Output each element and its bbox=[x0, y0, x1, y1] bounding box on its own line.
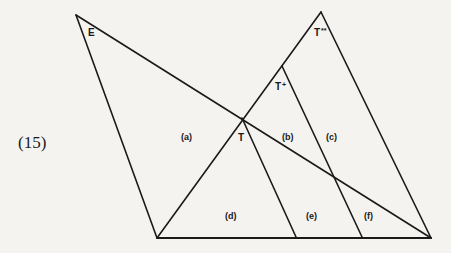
region-label-e: (e) bbox=[306, 212, 317, 221]
region-label-f: (f) bbox=[364, 212, 373, 221]
vertex-label-T-plus: T+ bbox=[275, 81, 286, 92]
line-E-to-bottom-right bbox=[76, 15, 431, 238]
region-label-c: (c) bbox=[326, 133, 337, 142]
line-bottom-left-to-top-apex bbox=[157, 12, 321, 238]
vertex-label-E: E bbox=[88, 28, 95, 38]
line-E-to-bottom-left bbox=[76, 15, 157, 238]
region-label-a: (a) bbox=[181, 133, 192, 142]
region-label-d: (d) bbox=[225, 212, 237, 221]
figure-number: (15) bbox=[18, 133, 46, 153]
vertex-label-T-star: T** bbox=[314, 27, 327, 38]
triangle-diagram: (15) E T T+ T** (a) (b) (c) (d) (e) (f) bbox=[0, 0, 451, 253]
region-label-b: (b) bbox=[282, 133, 294, 142]
vertex-label-T: T bbox=[238, 133, 244, 143]
